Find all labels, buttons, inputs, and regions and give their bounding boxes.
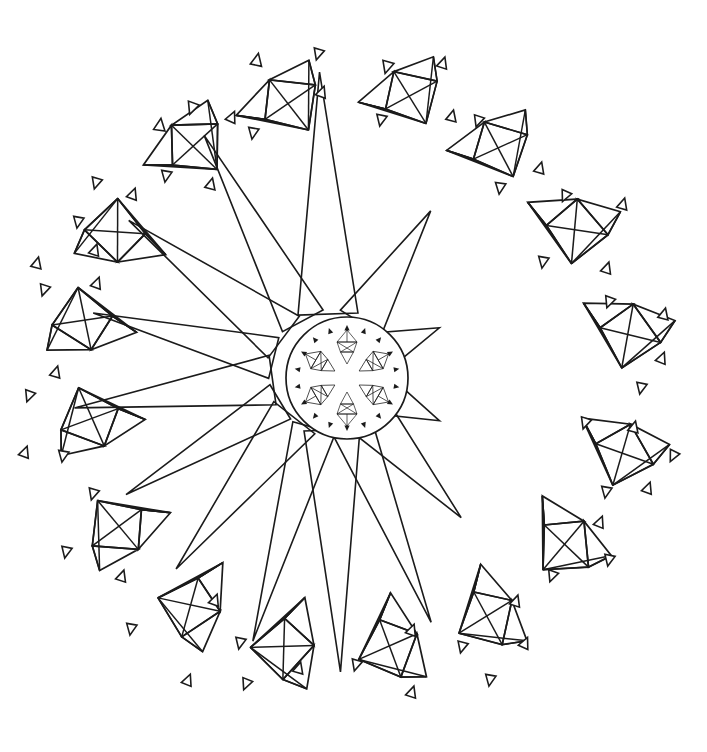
gem-burst-illustration [0, 0, 707, 752]
artboard [0, 0, 707, 752]
medallion-layer [286, 317, 408, 439]
